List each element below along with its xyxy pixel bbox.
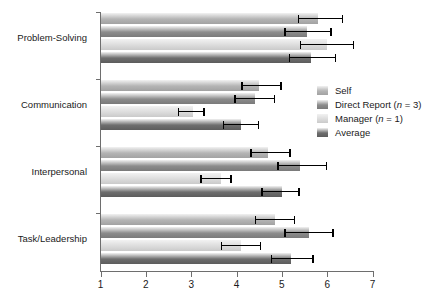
y-axis-tick — [96, 79, 100, 80]
error-cap-0-2-low — [300, 41, 302, 49]
error-bar-2-1 — [277, 165, 327, 167]
error-bar-3-3 — [271, 258, 314, 260]
category-label-2: Interpersonal — [32, 167, 87, 177]
error-cap-2-3-low — [261, 188, 263, 196]
x-tick-label-4: 5 — [272, 279, 292, 290]
x-tick-4 — [282, 272, 283, 277]
error-cap-3-2-high — [260, 242, 262, 250]
x-tick-0 — [101, 272, 102, 277]
error-bar-0-1 — [284, 31, 332, 33]
legend-label-3: Average — [335, 126, 370, 139]
bar-1-1 — [101, 93, 255, 104]
x-tick-3 — [237, 272, 238, 277]
x-tick-label-0: 1 — [91, 279, 111, 290]
error-bar-0-2 — [300, 44, 354, 46]
error-bar-2-3 — [261, 191, 300, 193]
error-cap-3-1-high — [332, 229, 334, 237]
legend-swatch-1 — [317, 100, 328, 109]
error-cap-0-0-high — [342, 15, 344, 23]
bar-3-3 — [101, 253, 291, 264]
legend-label-1: Direct Report (n = 3) — [335, 98, 421, 111]
error-bar-3-1 — [284, 232, 334, 234]
y-axis-tick — [96, 213, 100, 214]
x-tick-6 — [373, 272, 374, 277]
bar-0-3 — [101, 52, 312, 63]
error-cap-0-1-low — [284, 28, 286, 36]
bar-2-0 — [101, 147, 269, 158]
error-bar-1-3 — [223, 124, 259, 126]
error-bar-3-0 — [255, 219, 296, 221]
chart-legend: SelfDirect Report (n = 3)Manager (n = 1)… — [317, 84, 435, 140]
error-cap-2-1-high — [326, 162, 328, 170]
bar-2-1 — [101, 160, 300, 171]
error-bar-2-2 — [200, 178, 232, 180]
error-cap-3-3-low — [271, 255, 273, 263]
error-cap-1-0-high — [280, 82, 282, 90]
chart-canvas: Problem-SolvingCommunicationInterpersona… — [0, 0, 435, 297]
error-cap-1-3-low — [223, 121, 225, 129]
bar-1-3 — [101, 119, 242, 130]
x-tick-label-1: 2 — [136, 279, 156, 290]
legend-label-2: Manager (n = 1) — [335, 112, 403, 125]
category-label-0: Problem-Solving — [17, 33, 87, 43]
legend-swatch-2 — [317, 114, 328, 123]
error-bar-1-2 — [178, 111, 205, 113]
x-tick-2 — [191, 272, 192, 277]
x-tick-label-2: 3 — [181, 279, 201, 290]
bar-0-0 — [101, 13, 319, 24]
error-bar-1-1 — [234, 98, 275, 100]
error-bar-1-0 — [241, 85, 282, 87]
y-axis-tick — [96, 12, 100, 13]
error-cap-3-1-low — [284, 229, 286, 237]
error-cap-0-3-low — [289, 54, 291, 62]
bar-3-1 — [101, 227, 310, 238]
bar-2-3 — [101, 186, 282, 197]
x-tick-5 — [327, 272, 328, 277]
legend-label-0: Self — [335, 84, 351, 97]
bar-0-1 — [101, 26, 307, 37]
category-label-1: Communication — [21, 100, 87, 110]
legend-swatch-3 — [317, 128, 328, 137]
error-cap-2-2-high — [230, 175, 232, 183]
y-axis-tick — [96, 146, 100, 147]
error-bar-0-3 — [289, 57, 337, 59]
error-cap-0-3-high — [335, 54, 337, 62]
category-label-3: Task/Leadership — [18, 234, 87, 244]
bar-3-0 — [101, 214, 276, 225]
bar-0-2 — [101, 39, 328, 50]
x-tick-label-3: 4 — [227, 279, 247, 290]
error-bar-3-2 — [221, 245, 262, 247]
error-cap-2-1-low — [277, 162, 279, 170]
bar-1-0 — [101, 80, 260, 91]
error-cap-3-3-high — [312, 255, 314, 263]
error-cap-1-0-low — [241, 82, 243, 90]
error-cap-0-1-high — [330, 28, 332, 36]
error-cap-2-0-low — [250, 149, 252, 157]
x-tick-1 — [146, 272, 147, 277]
x-tick-label-5: 6 — [317, 279, 337, 290]
error-cap-1-2-high — [203, 108, 205, 116]
error-cap-3-0-low — [255, 216, 257, 224]
error-cap-2-3-high — [298, 188, 300, 196]
error-cap-2-2-low — [200, 175, 202, 183]
legend-swatch-0 — [317, 86, 328, 95]
error-cap-3-2-low — [221, 242, 223, 250]
error-cap-0-0-low — [298, 15, 300, 23]
error-bar-0-0 — [298, 18, 343, 20]
error-cap-0-2-high — [353, 41, 355, 49]
error-cap-1-1-high — [274, 95, 276, 103]
error-bar-2-0 — [250, 152, 291, 154]
error-cap-3-0-high — [294, 216, 296, 224]
error-cap-2-0-high — [289, 149, 291, 157]
x-tick-label-6: 7 — [363, 279, 383, 290]
error-cap-1-3-high — [258, 121, 260, 129]
error-cap-1-1-low — [234, 95, 236, 103]
error-cap-1-2-low — [178, 108, 180, 116]
